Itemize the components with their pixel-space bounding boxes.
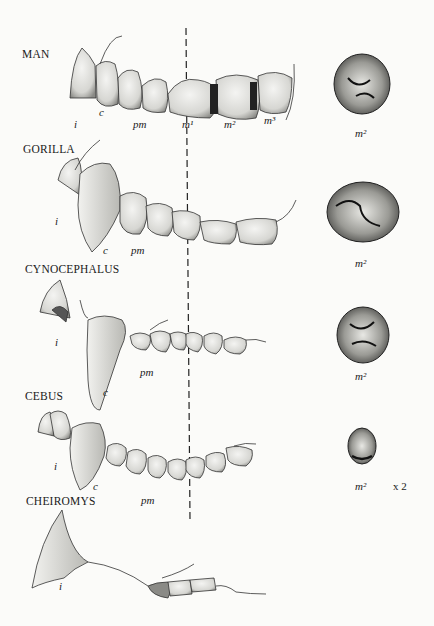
man-label-m3: m³ (264, 114, 275, 126)
cynocephalus-detail-label: m² (355, 370, 366, 382)
gorilla-m2-crown (327, 182, 399, 242)
man-label-m1: m¹ (182, 118, 193, 130)
cebus-label-incisor: i (54, 460, 57, 472)
man-label-incisor: i (74, 118, 77, 130)
cebus-detail-label: m² (355, 480, 366, 492)
cheiromys-tooth-row (32, 510, 266, 598)
man-label-m2: m² (224, 118, 235, 130)
cynocephalus-label-incisor: i (55, 336, 58, 348)
cynocephalus-tooth-row (40, 280, 266, 410)
man-label-canine: c (99, 106, 104, 118)
man-label-premolars: pm (133, 118, 146, 130)
dentition-drawings (0, 0, 434, 626)
cynocephalus-m2-crown (337, 307, 389, 363)
cebus-label-canine: c (93, 480, 98, 492)
gorilla-label-incisor: i (55, 215, 58, 227)
cynocephalus-label-premolars: pm (140, 366, 153, 378)
cebus-tooth-row (38, 411, 256, 490)
cheiromys-label-incisor: i (59, 580, 62, 592)
gorilla-detail-label: m² (355, 257, 366, 269)
cebus-label-premolars: pm (141, 494, 154, 506)
gorilla-label-premolars: pm (131, 244, 144, 256)
cebus-scale-note: x 2 (393, 480, 407, 492)
cynocephalus-label-canine: c (103, 386, 108, 398)
man-detail-label: m² (355, 127, 366, 139)
gorilla-tooth-row (58, 140, 296, 252)
gorilla-label-canine: c (103, 244, 108, 256)
